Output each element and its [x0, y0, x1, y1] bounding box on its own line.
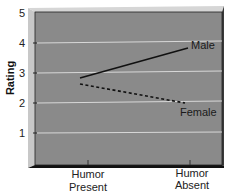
frame-left-bevel	[28, 8, 35, 168]
plot-area	[35, 12, 222, 165]
x-category-label-present-line2: Present	[69, 181, 107, 193]
series-label-male: Male	[191, 39, 215, 51]
chart: 5 4 3 2 1 Rating Male Female Humor Prese…	[0, 0, 233, 195]
x-category-label-absent-line2: Absent	[175, 179, 209, 191]
x-category-label-present-line1: Humor	[71, 168, 104, 180]
y-tick-label-3: 3	[19, 67, 25, 79]
y-tick-label-2: 2	[19, 97, 25, 109]
frame-top-bevel	[28, 6, 224, 12]
series-label-female: Female	[180, 106, 217, 118]
y-axis-title: Rating	[4, 61, 16, 95]
y-tick-label-4: 4	[19, 37, 25, 49]
y-tick-label-1: 1	[19, 127, 25, 139]
y-tick-label-5: 5	[19, 7, 25, 19]
x-category-label-absent-line1: Humor	[175, 167, 208, 179]
